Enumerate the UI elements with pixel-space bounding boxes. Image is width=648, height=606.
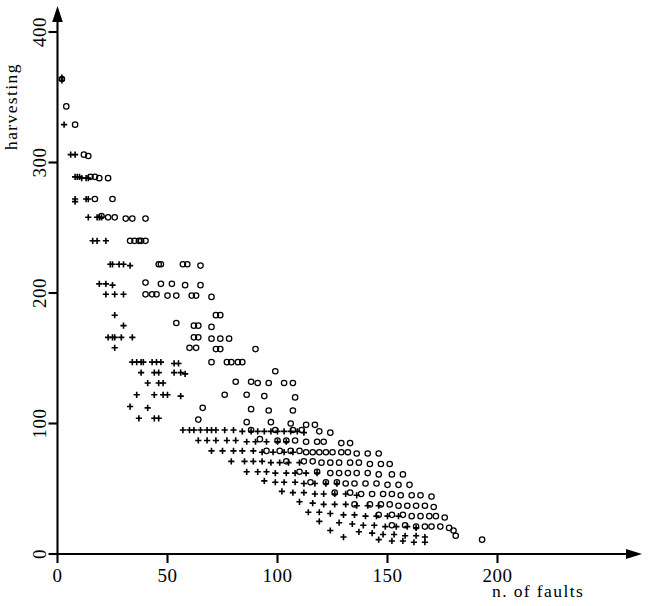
data-point-circle	[396, 482, 401, 487]
data-point-plus	[145, 405, 151, 411]
data-point-circle	[387, 502, 392, 507]
data-point-plus	[103, 281, 109, 287]
data-point-circle	[354, 451, 359, 456]
data-point-circle	[312, 422, 317, 427]
data-point-circle	[248, 406, 253, 411]
data-point-circle	[290, 380, 295, 385]
data-point-circle	[385, 482, 390, 487]
data-point-circle	[330, 450, 335, 455]
data-point-plus	[354, 503, 360, 509]
data-point-plus	[178, 393, 184, 399]
x-axis	[58, 549, 643, 559]
data-point-circle	[347, 460, 352, 465]
data-point-plus	[244, 469, 250, 475]
data-point-circle	[429, 494, 434, 499]
data-point-circle	[209, 294, 214, 299]
data-point-circle	[317, 429, 322, 434]
data-point-plus	[158, 359, 164, 365]
data-point-plus	[230, 427, 236, 433]
data-point-plus	[268, 460, 274, 466]
y-tick-label-100: 100	[29, 409, 50, 439]
data-point-circle	[380, 491, 385, 496]
data-point-circle	[248, 379, 253, 384]
data-point-plus	[250, 458, 256, 464]
data-point-circle	[363, 481, 368, 486]
data-point-plus	[120, 291, 126, 297]
data-point-plus	[259, 458, 265, 464]
data-point-circle	[292, 438, 297, 443]
data-point-plus	[281, 479, 287, 485]
data-point-circle	[405, 503, 410, 508]
data-point-plus	[85, 214, 91, 220]
data-point-circle	[72, 122, 77, 127]
data-point-plus	[103, 291, 109, 297]
data-point-plus	[327, 527, 333, 533]
y-tick-label-200: 200	[29, 278, 50, 308]
data-point-circle	[367, 461, 372, 466]
y-tick-label-300: 300	[29, 148, 50, 178]
data-point-plus	[197, 427, 203, 433]
data-point-plus	[195, 437, 201, 443]
data-point-circle	[314, 439, 319, 444]
data-point-circle	[354, 470, 359, 475]
data-point-plus	[263, 469, 269, 475]
data-point-plus	[175, 360, 181, 366]
data-point-circle	[169, 281, 174, 286]
data-point-plus	[380, 531, 386, 537]
x-tick-label-0: 0	[53, 565, 63, 586]
data-point-circle	[378, 461, 383, 466]
data-point-circle	[323, 450, 328, 455]
data-point-circle	[303, 422, 308, 427]
data-point-circle	[453, 533, 458, 538]
data-markers-plus	[59, 75, 428, 546]
data-point-plus	[389, 538, 395, 544]
data-point-circle	[143, 292, 148, 297]
data-point-circle	[374, 481, 379, 486]
data-point-circle	[369, 491, 374, 496]
data-point-plus	[351, 512, 357, 518]
data-point-plus	[233, 437, 239, 443]
data-point-circle	[389, 491, 394, 496]
data-point-plus	[263, 439, 269, 445]
data-point-plus	[270, 449, 276, 455]
data-markers-circle	[59, 76, 485, 542]
y-axis-arrowhead	[52, 6, 63, 22]
data-point-circle	[158, 281, 163, 286]
data-point-plus	[136, 415, 142, 421]
data-point-circle	[431, 504, 436, 509]
data-point-circle	[365, 451, 370, 456]
data-point-circle	[290, 408, 295, 413]
data-point-plus	[103, 238, 109, 244]
data-point-plus	[281, 428, 287, 434]
data-point-plus	[356, 529, 362, 535]
data-point-circle	[198, 282, 203, 287]
data-point-circle	[389, 472, 394, 477]
data-point-circle	[253, 346, 258, 351]
data-point-circle	[442, 515, 447, 520]
data-point-circle	[105, 215, 110, 220]
data-point-plus	[250, 448, 256, 454]
data-point-circle	[182, 282, 187, 287]
data-point-plus	[343, 501, 349, 507]
data-point-circle	[343, 481, 348, 486]
data-point-circle	[281, 380, 286, 385]
data-point-circle	[112, 215, 117, 220]
data-point-circle	[396, 503, 401, 508]
data-point-plus	[120, 323, 126, 329]
data-point-circle	[422, 524, 427, 529]
data-point-plus	[239, 428, 245, 434]
data-point-circle	[398, 493, 403, 498]
data-point-plus	[274, 428, 280, 434]
data-point-plus	[277, 460, 283, 466]
data-point-plus	[362, 513, 368, 519]
data-point-circle	[400, 472, 405, 477]
data-point-circle	[310, 450, 315, 455]
data-point-plus	[204, 437, 210, 443]
data-point-plus	[404, 523, 410, 529]
data-point-circle	[266, 408, 271, 413]
data-point-plus	[138, 370, 144, 376]
data-point-plus	[296, 499, 302, 505]
data-point-plus	[376, 537, 382, 543]
data-point-plus	[255, 469, 261, 475]
data-point-plus	[213, 437, 219, 443]
